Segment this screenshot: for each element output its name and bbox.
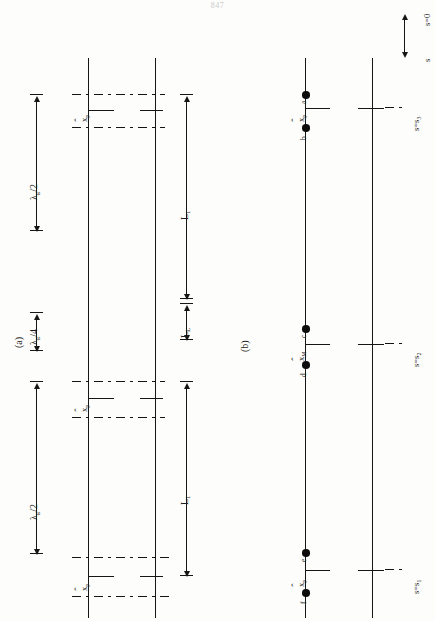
panel-a-caption: (a) — [14, 337, 24, 348]
x-hat-M-label: xM — [297, 352, 307, 361]
s-equals-s2-label: s=s2 — [412, 353, 422, 367]
point-d-marker — [302, 361, 310, 369]
L1-upper-symbol: L — [179, 214, 190, 220]
lambda-mid-tick-lower — [30, 350, 43, 351]
L1-upper-sub: 1 — [184, 210, 191, 213]
lambda-sub-2: g — [33, 337, 40, 340]
iris-3-centreline-bottom — [72, 596, 170, 597]
panel-b-axis-line — [305, 58, 306, 618]
lambda-bottom-arrow-upper — [34, 383, 40, 389]
lambda-g-over-4-label: λg/4 — [29, 329, 41, 345]
point-e-marker — [302, 549, 310, 557]
point-c-marker — [302, 325, 310, 333]
x-hat-p-lower-label: xp — [297, 580, 307, 587]
s-equals-0-label: s=0 — [423, 14, 432, 26]
point-b-label: b — [300, 136, 308, 140]
lambda-symbol-2: λ — [28, 340, 39, 345]
iris-3-centreline-top — [72, 557, 170, 558]
iris-2-centreline-top — [72, 381, 165, 382]
LL-tick-bottom — [180, 339, 193, 340]
lambda-g-over-2-top-label: λg/2 — [29, 184, 41, 200]
wall-tick-s2 — [358, 344, 384, 345]
wall-tick-s3 — [358, 108, 384, 109]
s-axis-label: s — [423, 59, 432, 62]
iris-1-label: xp — [80, 115, 90, 122]
iris-3-fin-left — [89, 576, 114, 577]
iris-2-fin-left — [89, 398, 114, 399]
LL-label: LL — [180, 328, 192, 338]
L1-lower-tick-bottom — [180, 575, 193, 576]
point-a-marker — [302, 91, 310, 99]
figure-page: 847 (a) xp xp xp — [0, 0, 435, 621]
iris-3-label: xp — [80, 584, 90, 591]
point-b-marker — [302, 124, 310, 132]
lambda-sub-1: g — [33, 192, 40, 195]
L1-upper-tick-bottom — [180, 298, 193, 299]
lambda-suffix-2: /4 — [28, 329, 39, 337]
iris-2-label: xp — [80, 405, 90, 412]
lambda-suffix-3: /2 — [28, 504, 39, 512]
panel-b-reference-wall — [372, 58, 373, 618]
iris-1-fin-right — [140, 110, 163, 111]
page-number: 847 — [0, 1, 435, 10]
L1-upper-dimline — [186, 98, 187, 298]
lambda-mid-arrow-upper — [34, 314, 40, 320]
lambda-top-dimline — [36, 98, 37, 230]
offset-bar-s3 — [306, 108, 330, 109]
iris-1-centreline-top — [72, 94, 165, 95]
lambda-top-tick-lower — [30, 230, 43, 231]
s-equals-s2-text: s=s — [411, 356, 421, 367]
lambda-top-arrow-upper — [34, 96, 40, 102]
lambda-g-over-2-bottom-label: λg/2 — [29, 504, 41, 520]
s-axis-arrow-line — [404, 18, 405, 56]
s-axis-arrow-head-top — [402, 14, 408, 20]
LL-symbol: L — [179, 332, 190, 338]
waveguide-wall-lower — [155, 58, 156, 618]
s-equals-s1-sub: 1 — [416, 580, 422, 583]
LL-sub: L — [184, 328, 191, 332]
offset-bar-s1 — [306, 570, 330, 571]
s-equals-s1-label: s=s1 — [412, 580, 422, 594]
waveguide-wall-upper — [88, 58, 89, 618]
iris-2-centreline-bottom — [72, 417, 165, 418]
s-equals-s3-text: s=s — [411, 120, 421, 131]
L1-lower-label: L1 — [180, 495, 192, 505]
L1-lower-dimline — [186, 385, 187, 575]
iris-2-fin-right — [140, 398, 163, 399]
point-a-label: a — [300, 101, 308, 104]
L1-lower-symbol: L — [179, 499, 190, 505]
x-hat-p-upper-label: xp — [297, 115, 307, 122]
L1-lower-sub: 1 — [184, 495, 191, 498]
point-d-label: d — [300, 373, 308, 377]
panel-b-caption: (b) — [240, 340, 250, 352]
L1-lower-arrow-top — [184, 383, 190, 389]
lambda-suffix-1: /2 — [28, 184, 39, 192]
offset-bar-s2 — [306, 344, 330, 345]
lambda-bottom-dimline — [36, 385, 37, 553]
lambda-symbol-1: λ — [28, 195, 39, 200]
station-s2-dashdot — [385, 343, 407, 344]
s-equals-s3-sub: 3 — [416, 117, 422, 120]
s-equals-s2-sub: 2 — [416, 353, 422, 356]
iris-1-fin-left — [89, 110, 114, 111]
lambda-symbol-3: λ — [28, 515, 39, 520]
lambda-sub-3: g — [33, 512, 40, 515]
point-c-label: c — [300, 335, 308, 338]
iris-3-fin-right — [140, 576, 163, 577]
L1-upper-arrow-top — [184, 96, 190, 102]
lambda-bottom-tick-lower — [30, 553, 43, 554]
point-f-marker — [302, 589, 310, 597]
s-equals-s3-label: s=s3 — [412, 117, 422, 131]
L1-upper-label: L1 — [180, 210, 192, 220]
s-equals-s1-text: s=s — [411, 583, 421, 594]
point-f-label: f — [300, 602, 308, 605]
iris-1-centreline-bottom — [72, 127, 165, 128]
station-s1-dashdot — [385, 569, 407, 570]
s-axis-arrow-head-bottom — [402, 52, 408, 58]
LL-arrow-top — [184, 305, 190, 311]
wall-tick-s1 — [358, 570, 384, 571]
point-e-label: e — [300, 559, 308, 562]
station-s3-dashdot — [385, 107, 407, 108]
